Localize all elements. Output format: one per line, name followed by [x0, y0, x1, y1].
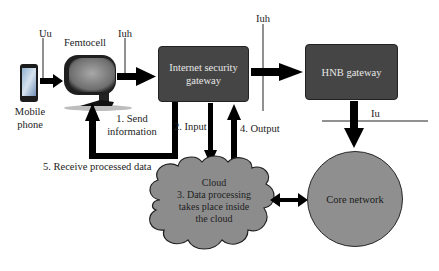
cloud-text: Cloud 3. Data processing takes place ins… — [168, 177, 260, 225]
step1-label: 1. Send information — [103, 112, 161, 138]
arrow-output — [227, 104, 241, 161]
cloud-line1: 3. Data processing — [168, 189, 260, 201]
mobile-phone-label: Mobile phone — [10, 105, 50, 131]
iu-label: Iu — [371, 108, 380, 120]
mobile-phone-label-line2: phone — [10, 118, 50, 131]
mobile-phone-label-line1: Mobile — [10, 105, 50, 118]
femtocell-icon — [64, 55, 132, 111]
arrow-isg-to-hnb — [251, 63, 303, 81]
cloud-line2: takes place inside — [168, 201, 260, 213]
step5-label: 5. Receive processed data — [43, 161, 151, 173]
step4-label: 4. Output — [240, 123, 280, 135]
hnb-gateway-label: HNB gateway — [322, 66, 382, 79]
step1-line2: information — [103, 125, 161, 138]
uu-label: Uu — [39, 28, 52, 40]
arrow-hnb-to-core — [344, 101, 364, 148]
isg-label-line1: Internet security — [169, 61, 238, 74]
arrow-femtocell-to-isg — [117, 67, 156, 86]
iuh-gateway-label: Iuh — [256, 13, 270, 25]
hnb-gateway-box: HNB gateway — [305, 44, 398, 100]
femtocell-label: Femtocell — [64, 37, 106, 49]
iuh-femto-label: Iuh — [118, 28, 132, 40]
internet-security-gateway-box: Internet security gateway — [158, 46, 249, 102]
cloud-title: Cloud — [168, 177, 260, 189]
cloud-line3: the cloud — [168, 213, 260, 225]
mobile-phone-icon — [20, 64, 38, 102]
core-network-label: Core network — [326, 194, 383, 205]
step2-label: 2. Input — [174, 121, 207, 133]
core-network-circle: Core network — [307, 151, 403, 247]
arrow-cloud-core-bidirectional — [270, 193, 308, 207]
step1-line1: 1. Send — [103, 112, 161, 125]
isg-label-line2: gateway — [186, 74, 221, 87]
